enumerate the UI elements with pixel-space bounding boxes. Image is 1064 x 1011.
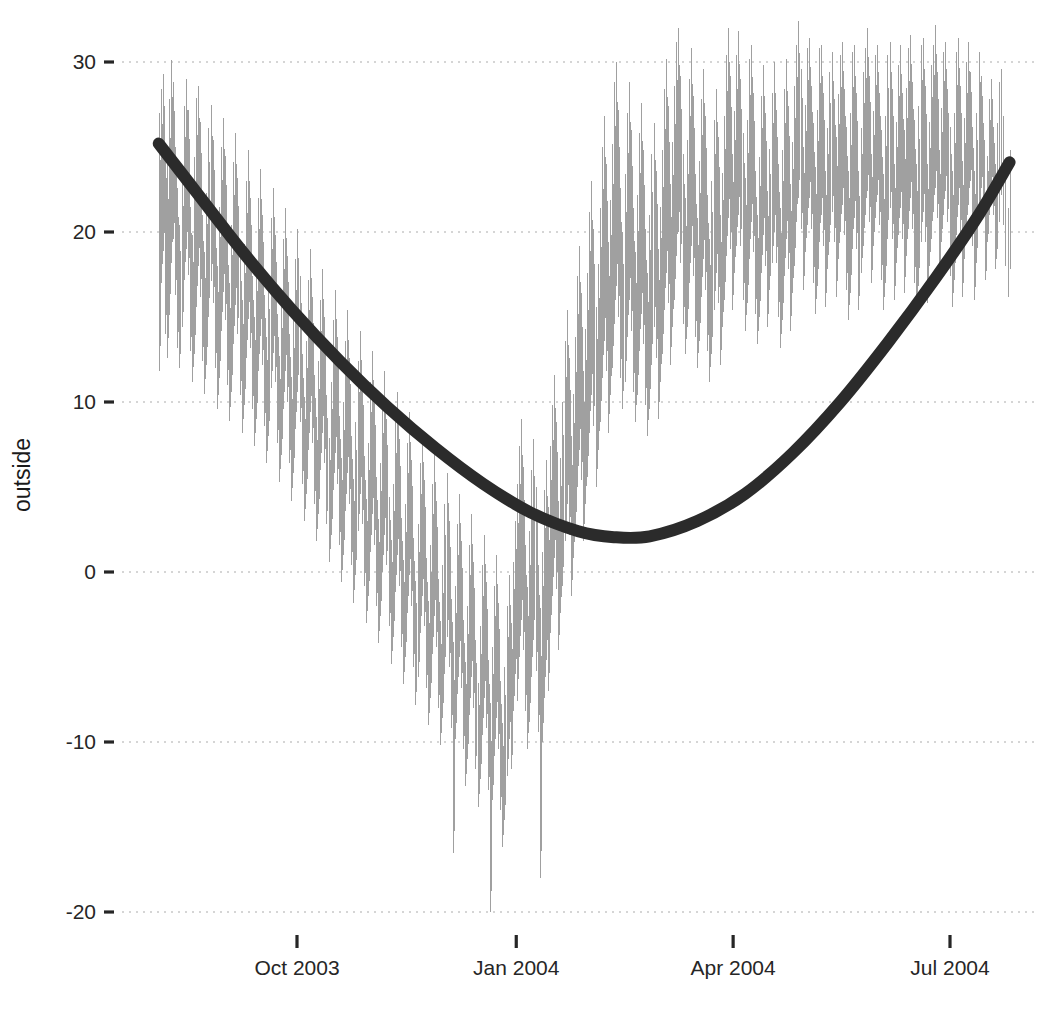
x-tick-label: Jan 2004 [473, 956, 560, 979]
y-axis-title: outside [9, 438, 35, 512]
y-tick-label: 10 [73, 390, 96, 413]
temperature-timeseries-chart: 3020100-10-20 Oct 2003Jan 2004Apr 2004Ju… [0, 0, 1064, 1011]
y-tick-label: 30 [73, 50, 96, 73]
y-tick-label: -20 [66, 900, 96, 923]
y-tick-label: 0 [84, 560, 96, 583]
x-tick-label: Jul 2004 [910, 956, 990, 979]
x-tick-label: Oct 2003 [254, 956, 339, 979]
y-tick-label: -10 [66, 730, 96, 753]
x-tick-label: Apr 2004 [691, 956, 777, 979]
chart-figure: 3020100-10-20 Oct 2003Jan 2004Apr 2004Ju… [0, 0, 1064, 1011]
y-tick-label: 20 [73, 220, 96, 243]
